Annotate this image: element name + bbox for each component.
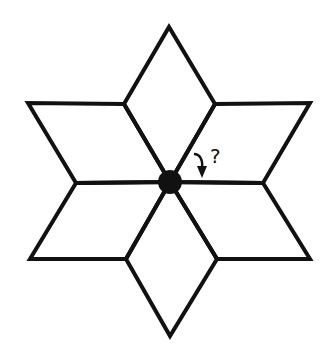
center-dot bbox=[158, 170, 182, 194]
rhombus-upper-left bbox=[28, 103, 170, 183]
curved-arrow-down-icon bbox=[194, 154, 207, 178]
star-diagram: ? bbox=[0, 0, 332, 363]
rhombus-lower-right bbox=[170, 182, 310, 259]
rhombus-upper-right bbox=[170, 103, 310, 183]
question-mark-label: ? bbox=[210, 144, 221, 168]
rhombus-bottom bbox=[126, 182, 217, 336]
rhombus-lower-left bbox=[30, 182, 170, 259]
